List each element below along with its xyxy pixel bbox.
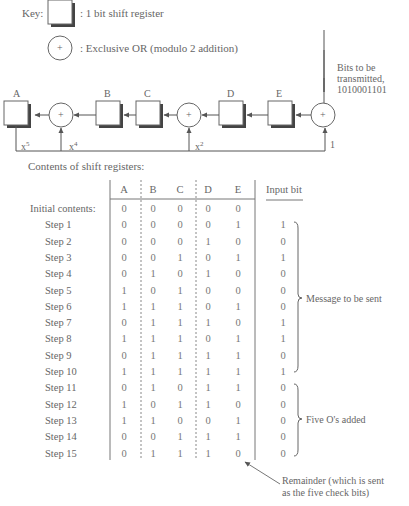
register-value-c: 1 xyxy=(173,350,187,362)
register-value-a: 1 xyxy=(117,415,131,427)
register-value-c: 1 xyxy=(173,317,187,329)
register-d-label: D xyxy=(227,88,234,99)
register-value-d: 1 xyxy=(201,366,215,378)
col-header-b: B xyxy=(146,184,160,196)
register-value-a: 1 xyxy=(117,285,131,297)
register-b-label: B xyxy=(104,88,111,99)
register-value-b: 1 xyxy=(146,317,160,329)
register-value-b: 0 xyxy=(146,285,160,297)
col-header-e: E xyxy=(231,184,245,196)
input-note-line2: transmitted, xyxy=(337,73,385,84)
register-value-e: 0 xyxy=(231,399,245,411)
register-value-a: 0 xyxy=(117,252,131,264)
input-bit-value: 0 xyxy=(276,415,290,427)
row-label-step: Step 5 xyxy=(45,285,72,297)
input-bit-value: 0 xyxy=(276,448,290,460)
register-value-a: 0 xyxy=(117,350,131,362)
remainder-annotation-line2: as the five check bits) xyxy=(282,487,369,498)
register-a-label: A xyxy=(13,88,20,99)
register-value-e: 1 xyxy=(231,219,245,231)
row-label-step: Step 12 xyxy=(45,399,77,411)
row-label-step: Step 14 xyxy=(45,431,77,443)
register-value-d: 1 xyxy=(201,399,215,411)
register-value-e: 1 xyxy=(231,366,245,378)
register-value-a: 0 xyxy=(117,268,131,280)
register-value-d: 1 xyxy=(201,268,215,280)
zeros-annotation: Five O's added xyxy=(306,414,366,425)
register-value-c: 1 xyxy=(173,448,187,460)
register-value-a: 1 xyxy=(117,333,131,345)
input-bit-value: 0 xyxy=(276,431,290,443)
register-value-a: 0 xyxy=(117,382,131,394)
register-value-c: 0 xyxy=(173,415,187,427)
col-header-c: C xyxy=(173,184,187,196)
register-value-b: 1 xyxy=(146,415,160,427)
register-value-a: 0 xyxy=(117,317,131,329)
col-header-d: D xyxy=(201,184,215,196)
register-value-c: 1 xyxy=(173,333,187,345)
register-value-e: 1 xyxy=(231,301,245,313)
row-label-step: Step 7 xyxy=(45,317,72,329)
register-value-c: 1 xyxy=(173,252,187,264)
row-label-step: Step 9 xyxy=(45,350,72,362)
register-c-label: C xyxy=(144,88,151,99)
register-value-b: 0 xyxy=(146,203,160,215)
register-value-a: 0 xyxy=(117,448,131,460)
row-label-step: Step 4 xyxy=(45,268,72,280)
row-label-step: Step 13 xyxy=(45,415,77,427)
register-value-e: 0 xyxy=(231,203,245,215)
tap-x4: x4 xyxy=(69,139,78,152)
register-value-e: 1 xyxy=(231,252,245,264)
register-value-c: 1 xyxy=(173,301,187,313)
register-value-d: 0 xyxy=(201,203,215,215)
tap-x2: x2 xyxy=(195,139,204,152)
register-value-b: 1 xyxy=(146,366,160,378)
register-value-c: 1 xyxy=(173,431,187,443)
col-header-a: A xyxy=(117,184,131,196)
row-label-step: Step 10 xyxy=(45,366,77,378)
register-value-e: 0 xyxy=(231,317,245,329)
input-bit-value: 1 xyxy=(276,252,290,264)
register-value-c: 1 xyxy=(173,399,187,411)
xor-2-plus: + xyxy=(186,109,192,120)
register-value-e: 0 xyxy=(231,285,245,297)
input-bit-value: 0 xyxy=(276,268,290,280)
register-value-a: 1 xyxy=(117,301,131,313)
input-bit-value: 0 xyxy=(276,382,290,394)
register-value-d: 1 xyxy=(201,317,215,329)
register-value-d: 1 xyxy=(201,448,215,460)
xor-key-description: : Exclusive OR (modulo 2 addition) xyxy=(80,42,238,54)
register-value-a: 0 xyxy=(117,203,131,215)
register-e-label: E xyxy=(276,88,282,99)
xor-1-plus: + xyxy=(58,109,64,120)
input-bit-value: 0 xyxy=(276,236,290,248)
key-xor-plus: + xyxy=(57,42,63,53)
tap-1: 1 xyxy=(330,139,335,150)
register-value-d: 1 xyxy=(201,350,215,362)
register-value-d: 0 xyxy=(201,415,215,427)
register-value-d: 0 xyxy=(201,333,215,345)
register-value-c: 0 xyxy=(173,236,187,248)
register-value-e: 1 xyxy=(231,415,245,427)
register-value-e: 1 xyxy=(231,382,245,394)
row-label-step: Step 3 xyxy=(45,252,72,264)
register-value-a: 0 xyxy=(117,236,131,248)
register-value-d: 0 xyxy=(201,252,215,264)
input-bit-value: 0 xyxy=(276,350,290,362)
row-label-step: Step 11 xyxy=(45,382,76,394)
xor-3-plus: + xyxy=(320,109,326,120)
row-label-step: Step 8 xyxy=(45,333,72,345)
register-value-b: 0 xyxy=(146,399,160,411)
table-title: Contents of shift registers: xyxy=(28,160,144,172)
row-label-step: Step 1 xyxy=(45,219,72,231)
register-value-a: 1 xyxy=(117,399,131,411)
input-bit-value: 1 xyxy=(276,366,290,378)
register-value-e: 0 xyxy=(231,448,245,460)
register-value-a: 0 xyxy=(117,431,131,443)
register-value-d: 1 xyxy=(201,236,215,248)
register-value-b: 1 xyxy=(146,350,160,362)
key-label: Key: xyxy=(22,7,43,19)
register-value-b: 1 xyxy=(146,382,160,394)
register-value-c: 1 xyxy=(173,366,187,378)
register-value-e: 1 xyxy=(231,350,245,362)
